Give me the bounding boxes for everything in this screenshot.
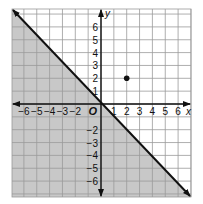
x-tick-label: 3 — [137, 106, 143, 117]
x-tick-label: −4 — [44, 106, 56, 117]
y-tick-label: 3 — [92, 60, 98, 71]
y-tick-label: 5 — [92, 35, 98, 46]
y-tick-label: −4 — [87, 150, 99, 161]
x-tick-label: 1 — [111, 106, 117, 117]
x-tick-label: −6 — [18, 106, 30, 117]
point-2-2 — [124, 76, 130, 82]
y-tick-label: −6 — [87, 176, 99, 187]
y-tick-label: 4 — [92, 48, 98, 59]
x-tick-label: −2 — [70, 106, 82, 117]
y-tick-label: 2 — [92, 73, 98, 84]
y-tick-label: −5 — [87, 163, 99, 174]
y-tick-label: 6 — [92, 22, 98, 33]
x-tick-label: 4 — [150, 106, 156, 117]
y-axis-label: y — [104, 8, 111, 19]
y-tick-label: −3 — [87, 138, 99, 149]
x-tick-label: 5 — [162, 106, 168, 117]
x-tick-label: 6 — [175, 106, 181, 117]
y-tick-label: 1 — [92, 86, 98, 97]
x-tick-label: 2 — [124, 106, 130, 117]
data-point — [124, 76, 130, 82]
y-tick-label: −2 — [87, 125, 99, 136]
graph-svg: −6−5−4−3−2123456654321−2−3−4−5−6Oxy — [0, 0, 203, 204]
x-axis-label: x — [185, 106, 192, 117]
coordinate-graph: −6−5−4−3−2123456654321−2−3−4−5−6Oxy — [0, 0, 203, 204]
x-tick-label: −5 — [31, 106, 43, 117]
origin-label: O — [88, 105, 97, 117]
x-tick-label: −3 — [57, 106, 69, 117]
